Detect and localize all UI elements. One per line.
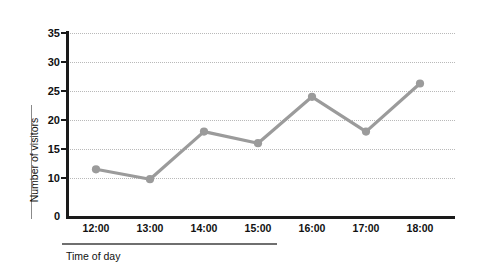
data-point-1600 xyxy=(308,93,316,101)
data-point-1700 xyxy=(362,128,370,136)
data-series-layer xyxy=(0,0,478,275)
series-line-visitors xyxy=(96,84,420,180)
data-point-1800 xyxy=(416,79,424,87)
series-markers xyxy=(92,79,424,183)
line-chart-figure: 35 30 25 20 15 10 0 Number of visitors 1… xyxy=(0,0,478,275)
data-point-1200 xyxy=(92,165,100,173)
data-point-1500 xyxy=(254,139,262,147)
data-point-1400 xyxy=(200,128,208,136)
data-point-1300 xyxy=(146,175,154,183)
